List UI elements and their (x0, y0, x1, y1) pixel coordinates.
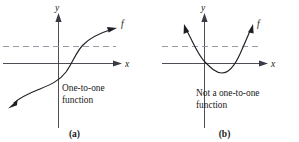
x-axis-arrowhead (259, 60, 268, 66)
figure-root: x y f One-to-one function (a) x (0, 0, 299, 142)
x-axis-arrowhead (113, 60, 122, 66)
curve-label-f: f (121, 19, 125, 29)
panel-b-caption: Not a one-to-one function (196, 88, 294, 111)
panel-a-graph: x y f (0, 0, 149, 142)
panel-b-graph: x y f (150, 0, 299, 142)
y-axis-label: y (54, 3, 60, 13)
panel-a-tag: (a) (0, 129, 149, 139)
panel-a-caption: One-to-one function (62, 83, 146, 106)
curve-label-f: f (257, 19, 261, 29)
x-axis-label: x (270, 59, 276, 69)
panel-one-to-one: x y f One-to-one function (a) (0, 0, 149, 142)
y-axis-arrowhead (201, 13, 207, 22)
y-axis-arrowhead (55, 13, 61, 22)
curve-arrowhead-lower-left (8, 100, 18, 109)
curve-arrowhead-upper-right (107, 27, 117, 32)
function-curve (187, 31, 250, 73)
x-axis-label: x (124, 59, 130, 69)
y-axis-label: y (200, 3, 206, 13)
curve-arrowhead-upper-right (248, 24, 254, 34)
panel-b-tag: (b) (150, 129, 299, 139)
panel-not-one-to-one: x y f Not a one-to-one function (b) (150, 0, 299, 142)
